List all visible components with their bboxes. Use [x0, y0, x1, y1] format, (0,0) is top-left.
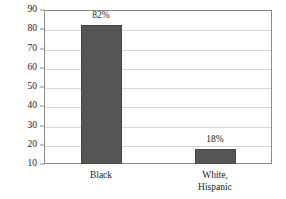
bar-chart: 102030405060708090 82%Black18%White, His…	[0, 0, 286, 199]
gridline	[45, 146, 271, 147]
y-axis-tick-label: 20	[28, 140, 38, 150]
gridline	[45, 127, 271, 128]
bar	[195, 149, 236, 164]
y-axis-tick-label: 90	[28, 5, 38, 15]
gridline	[45, 50, 271, 51]
gridline	[45, 30, 271, 31]
gridline	[45, 88, 271, 89]
x-axis-category-label: White, Hispanic	[198, 170, 232, 193]
y-axis-tick-label: 80	[28, 25, 38, 35]
gridline	[45, 107, 271, 108]
y-axis-tick-label: 30	[28, 121, 38, 131]
y-axis-tick-label: 60	[28, 63, 38, 73]
y-axis-tick-label: 50	[28, 82, 38, 92]
y-axis: 102030405060708090	[0, 0, 44, 199]
bar	[81, 25, 122, 164]
bar-value-label: 82%	[92, 11, 109, 21]
bar-value-label: 18%	[206, 135, 223, 145]
x-axis-category-label: Black	[90, 170, 112, 182]
y-axis-tick-label: 40	[28, 102, 38, 112]
gridline	[45, 69, 271, 70]
y-axis-tick-label: 10	[28, 159, 38, 169]
plot-area	[44, 10, 272, 164]
y-axis-tick-label: 70	[28, 44, 38, 54]
